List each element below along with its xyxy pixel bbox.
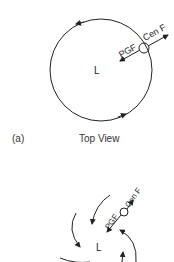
low-pressure-label: L (96, 242, 102, 253)
diagram-canvas: PGF Cen F L PGF Cen F L (0, 0, 174, 262)
cenf-label: Cen F (123, 186, 143, 209)
low-pressure-label: L (94, 65, 100, 76)
air-parcel (120, 208, 128, 216)
panel-b-spiral-view: PGF Cen F L (60, 186, 143, 262)
panel-a-label: (a) (12, 133, 24, 144)
cenf-label: Cen F (141, 22, 168, 43)
panel-a-top-view: PGF Cen F L (50, 19, 168, 121)
flow-circle (50, 19, 152, 121)
spiral-arrow-5-icon (122, 252, 123, 262)
spiral-arrow-2-icon (72, 213, 80, 247)
spiral-arrow-3-icon (60, 258, 90, 262)
pgf-label: PGF (103, 212, 120, 231)
panel-a-title: Top View (79, 133, 119, 144)
